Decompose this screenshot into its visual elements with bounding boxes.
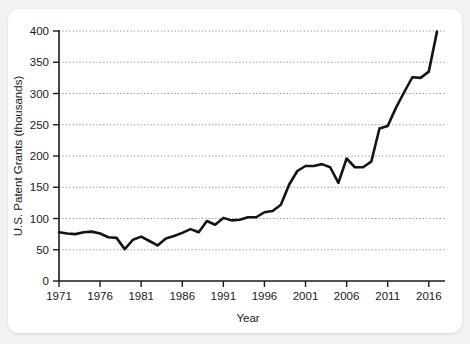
line-chart: 050100150200250300350400 197119761981198… [8, 9, 462, 333]
x-tick-label: 2011 [375, 290, 400, 302]
x-tick-label: 1981 [128, 290, 154, 302]
y-tick-label: 400 [30, 25, 49, 37]
y-axis-ticks: 050100150200250300350400 [30, 25, 59, 287]
y-tick-label: 200 [30, 150, 49, 162]
x-tick-label: 1996 [252, 290, 278, 302]
y-tick-label: 150 [30, 181, 49, 193]
chart-card: 050100150200250300350400 197119761981198… [8, 9, 462, 333]
y-axis-title: U.S. Patent Grants (thousands) [12, 76, 24, 237]
x-tick-label: 2016 [416, 290, 442, 302]
x-tick-label: 1971 [46, 290, 72, 302]
x-tick-label: 1986 [169, 290, 195, 302]
y-tick-label: 50 [36, 244, 49, 256]
x-axis-ticks: 1971197619811986199119962001200620112016 [46, 281, 441, 302]
y-tick-label: 250 [30, 119, 49, 131]
x-tick-label: 2001 [293, 290, 319, 302]
chart-page: 050100150200250300350400 197119761981198… [0, 0, 470, 344]
x-tick-label: 2006 [334, 290, 360, 302]
y-tick-label: 350 [30, 56, 49, 68]
y-tick-label: 300 [30, 88, 49, 100]
x-axis-title: Year [236, 312, 259, 324]
x-tick-label: 1991 [211, 290, 237, 302]
x-tick-label: 1976 [87, 290, 113, 302]
y-tick-label: 100 [30, 213, 49, 225]
data-series-line [59, 32, 437, 250]
y-tick-label: 0 [43, 275, 49, 287]
